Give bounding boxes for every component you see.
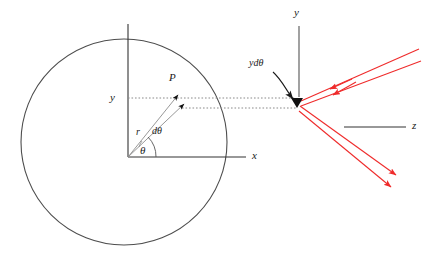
theta-angle-arc [148, 137, 156, 157]
incident-ray-lower [301, 61, 421, 106]
dtheta-label: dθ [152, 126, 162, 136]
radius-label: r [136, 127, 140, 137]
incident-ray-upper [301, 49, 419, 101]
disc-circle [21, 39, 227, 245]
reflected-ray-upper [300, 106, 396, 175]
figure-canvas: P y x r dθ θ ydθ y z [0, 0, 428, 279]
diagram-svg [0, 0, 428, 279]
point-p-label: P [169, 72, 176, 83]
reflected-ray-lower [299, 111, 391, 187]
ydtheta-leader-arrow [273, 72, 293, 99]
arc-length-label: ydθ [249, 58, 263, 68]
y-axis-left-label: y [110, 92, 115, 103]
incident-ray-upper-arrow [330, 79, 352, 89]
incident-ray-lower-arrow [333, 82, 356, 95]
x-axis-label: x [252, 150, 257, 161]
y-axis-right-label: y [294, 7, 299, 18]
z-axis-label: z [412, 120, 416, 131]
theta-label: θ [140, 145, 145, 156]
